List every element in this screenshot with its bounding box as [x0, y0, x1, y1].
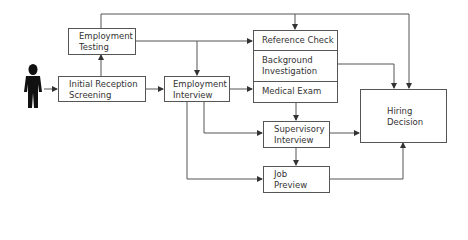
hiring-decision-label: Hiring Decision [387, 106, 423, 128]
employment-interview-label: Employment Interview [173, 79, 227, 101]
reference-check-label: Reference Check [262, 35, 334, 46]
job-preview-label: Job Preview [274, 169, 307, 191]
supervisory-interview-label: Supervisory Interview [274, 124, 324, 146]
reference-check-section: Reference Check [254, 31, 337, 51]
medical-exam-section: Medical Exam [254, 82, 337, 103]
hiring-decision-box: Hiring Decision [360, 89, 447, 143]
medical-exam-label: Medical Exam [262, 86, 321, 97]
employment-interview-box: Employment Interview [164, 76, 230, 102]
checks-group-box: Reference Check Background Investigation… [253, 30, 338, 103]
person-icon [23, 64, 43, 109]
employment-testing-label: Employment Testing [79, 31, 133, 53]
background-investigation-label: Background Investigation [262, 55, 317, 77]
initial-reception-label: Initial Reception Screening [69, 79, 138, 101]
job-preview-box: Job Preview [263, 166, 330, 193]
initial-reception-box: Initial Reception Screening [58, 76, 146, 102]
supervisory-interview-box: Supervisory Interview [263, 121, 330, 148]
employment-testing-box: Employment Testing [68, 28, 136, 55]
background-investigation-section: Background Investigation [254, 50, 337, 82]
